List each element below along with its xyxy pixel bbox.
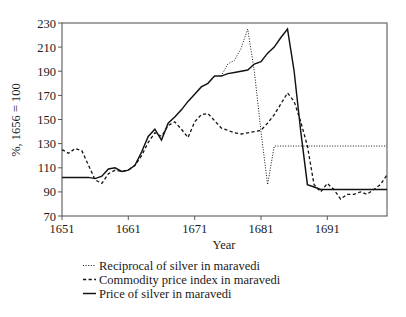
y-tick-marks xyxy=(58,23,62,216)
y-tick-labels: 230 210 190 170 150 130 110 90 70 xyxy=(37,17,56,224)
x-tick-label: 1681 xyxy=(249,222,274,236)
y-tick-label: 210 xyxy=(37,41,56,55)
x-tick-marks xyxy=(62,216,327,220)
y-tick-label: 90 xyxy=(44,185,57,199)
x-tick-label: 1651 xyxy=(50,222,75,236)
y-tick-label: 150 xyxy=(37,113,56,127)
y-tick-label: 130 xyxy=(37,137,56,151)
line-chart-svg: %, 1656 = 100 230 210 190 170 150 130 11… xyxy=(0,0,406,317)
plot-frame xyxy=(62,23,387,216)
legend-label-commodity-price-index: Commodity price index in maravedi xyxy=(99,273,281,287)
y-tick-label: 170 xyxy=(37,89,56,103)
x-axis-title: Year xyxy=(212,238,236,252)
x-tick-label: 1691 xyxy=(315,222,340,236)
x-tick-label: 1661 xyxy=(116,222,141,236)
y-tick-label: 230 xyxy=(37,17,56,31)
series-group xyxy=(62,29,387,199)
y-axis-title: %, 1656 = 100 xyxy=(9,83,23,157)
legend: Reciprocal of silver in maravedi Commodi… xyxy=(83,259,281,301)
x-tick-label: 1671 xyxy=(182,222,207,236)
series-price-of-silver xyxy=(62,29,387,189)
chart-figure: %, 1656 = 100 230 210 190 170 150 130 11… xyxy=(0,0,406,317)
legend-label-price-of-silver: Price of silver in maravedi xyxy=(99,287,232,301)
y-tick-label: 190 xyxy=(37,65,56,79)
x-tick-labels: 1651 1661 1671 1681 1691 xyxy=(50,222,340,236)
y-tick-label: 110 xyxy=(38,161,56,175)
legend-label-reciprocal-of-silver: Reciprocal of silver in maravedi xyxy=(99,259,261,273)
